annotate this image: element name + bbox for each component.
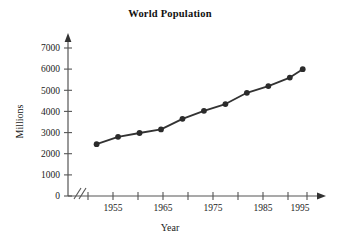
y-tick-label: 0 (55, 191, 60, 201)
data-point (244, 90, 250, 96)
y-tick-label: 7000 (41, 43, 60, 53)
data-point (158, 126, 164, 132)
x-tick-label: 1975 (204, 203, 223, 213)
x-axis-title: Year (0, 222, 340, 233)
x-tick-label: 1985 (254, 203, 273, 213)
y-tick-label: 5000 (41, 86, 60, 96)
y-tick-label: 1000 (41, 170, 60, 180)
data-point (300, 66, 306, 72)
y-tick-label: 2000 (41, 149, 60, 159)
x-tick-label: 1955 (104, 203, 123, 213)
x-axis (68, 193, 326, 200)
data-point (223, 101, 229, 107)
chart-figure: World Population (0, 0, 340, 246)
x-axis-break-icon (74, 188, 86, 199)
data-point (180, 116, 186, 122)
y-tick-label: 3000 (41, 128, 60, 138)
y-tick-label: 6000 (41, 64, 60, 74)
line-chart-plot: 0 1000 2000 3000 4000 5000 6000 7000 195… (0, 0, 340, 246)
x-tick-label: 1965 (154, 203, 173, 213)
data-point (201, 108, 207, 114)
data-point (115, 134, 121, 140)
y-axis (65, 33, 72, 196)
data-point (137, 130, 143, 136)
y-tick-label: 4000 (41, 107, 60, 117)
data-point (265, 83, 271, 89)
data-point (94, 141, 100, 147)
y-axis-title-text: Millions (14, 87, 25, 157)
y-axis-tick-labels: 0 1000 2000 3000 4000 5000 6000 7000 (41, 43, 60, 201)
x-axis-tick-labels: 1955 1965 1975 1985 1995 (104, 203, 310, 213)
x-tick-label: 1995 (291, 203, 310, 213)
data-point (287, 75, 293, 81)
y-axis-title: Millions (10, 90, 28, 160)
data-series-line (97, 69, 303, 144)
